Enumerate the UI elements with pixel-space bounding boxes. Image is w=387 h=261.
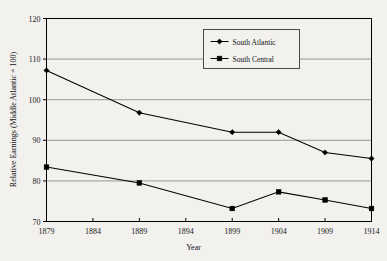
legend-label: South Atlantic xyxy=(233,38,277,47)
square-marker-icon xyxy=(44,165,49,170)
x-tick-label: 1884 xyxy=(85,227,101,236)
chart-legend: South AtlanticSouth Central xyxy=(204,30,300,69)
square-marker-icon-legend xyxy=(217,56,222,61)
square-marker-icon xyxy=(276,190,281,195)
y-tick-label: 110 xyxy=(29,55,41,64)
x-tick-label: 1879 xyxy=(39,227,55,236)
y-tick-label: 100 xyxy=(29,96,41,105)
legend-label: South Central xyxy=(233,55,274,64)
line-chart: 18791884188918941899190419091914 7080901… xyxy=(0,0,387,261)
y-tick-label: 90 xyxy=(33,136,41,145)
x-tick-label: 1889 xyxy=(131,227,147,236)
y-tick-label: 70 xyxy=(33,218,41,227)
square-marker-icon xyxy=(323,198,328,203)
x-tick-label: 1914 xyxy=(364,227,380,236)
square-marker-icon xyxy=(230,206,235,211)
x-tick-label: 1894 xyxy=(178,227,194,236)
y-tick-label: 80 xyxy=(33,177,41,186)
square-marker-icon xyxy=(137,181,142,186)
y-tick-label: 120 xyxy=(29,15,41,24)
x-tick-label: 1899 xyxy=(224,227,240,236)
x-tick-label: 1904 xyxy=(271,227,287,236)
x-tick-label: 1909 xyxy=(317,227,333,236)
chart-figure: 18791884188918941899190419091914 7080901… xyxy=(0,0,387,261)
y-axis-title: Relative Earnings (Middle Atlantic = 100… xyxy=(9,51,18,187)
square-marker-icon xyxy=(369,206,374,211)
x-axis-title: Year xyxy=(186,243,201,252)
